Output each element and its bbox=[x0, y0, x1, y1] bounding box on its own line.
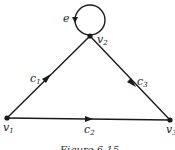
arrow-icon-e bbox=[72, 17, 78, 23]
arrow-icon-c2 bbox=[85, 116, 93, 122]
vertex-label-v1: v1 bbox=[3, 121, 14, 135]
vertex-label-v2: v2 bbox=[97, 33, 108, 47]
figure-caption: Figure 6.15 bbox=[59, 144, 119, 150]
edge-c3 bbox=[90, 36, 170, 120]
vertex-v1 bbox=[4, 115, 9, 120]
graph-diagram: e c1 c3 c2 v1 v2 v3 Figure 6.15 bbox=[0, 0, 175, 150]
edge-label-e: e bbox=[63, 12, 70, 25]
edge-label-c3: c3 bbox=[137, 75, 148, 89]
vertex-label-v3: v3 bbox=[166, 123, 175, 137]
edge-label-c2: c2 bbox=[84, 123, 95, 137]
edge-label-c1: c1 bbox=[30, 72, 41, 86]
vertex-v2 bbox=[87, 33, 92, 38]
edge-loop-e bbox=[75, 5, 105, 35]
vertex-v3 bbox=[167, 117, 172, 122]
